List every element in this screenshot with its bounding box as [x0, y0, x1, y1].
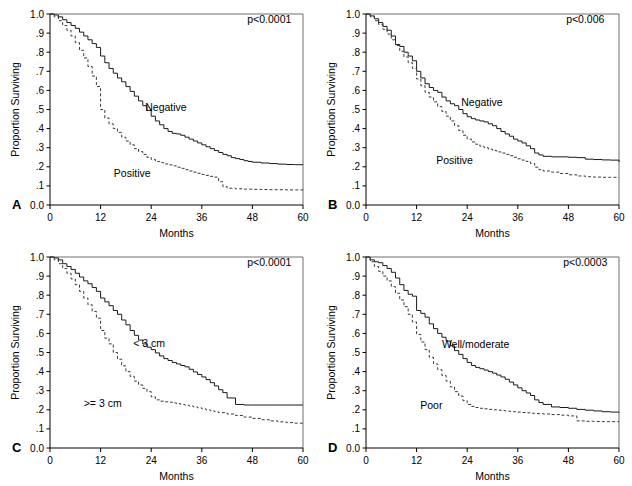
y-tick-label: .2	[36, 404, 45, 415]
y-tick-label: .3	[352, 385, 361, 396]
y-tick-label: .2	[36, 161, 45, 172]
y-tick-label: .1	[36, 423, 45, 434]
y-tick-label: .6	[36, 328, 45, 339]
y-tick-label: .7	[352, 66, 361, 77]
panel-d: 0.0.1.2.3.4.5.6.7.8.91.001224364860Month…	[316, 243, 632, 486]
y-tick-label: .1	[352, 423, 361, 434]
y-axis-title: Proportion Surviving	[325, 305, 337, 400]
x-tick-label: 60	[297, 455, 309, 466]
y-tick-label: .3	[36, 385, 45, 396]
x-tick-label: 0	[363, 212, 369, 223]
panel-d-plot: 0.0.1.2.3.4.5.6.7.8.91.001224364860Month…	[316, 243, 632, 486]
panel-letter: C	[12, 440, 22, 455]
panel-a: 0.0.1.2.3.4.5.6.7.8.91.001224364860Month…	[0, 0, 316, 243]
series-label: Positive	[114, 167, 151, 179]
series-label: Negative	[461, 96, 503, 108]
x-axis-title: Months	[159, 227, 193, 239]
x-tick-label: 24	[462, 455, 474, 466]
x-tick-label: 60	[297, 212, 309, 223]
panel-letter: A	[12, 197, 22, 212]
x-tick-label: 36	[196, 212, 208, 223]
series-label: Well/moderate	[442, 338, 510, 350]
x-tick-label: 0	[47, 455, 53, 466]
y-tick-label: 0.0	[30, 443, 44, 454]
series-label: < 3 cm	[133, 337, 165, 349]
y-axis-title: Proportion Surviving	[9, 62, 21, 157]
y-tick-label: .7	[36, 309, 45, 320]
kaplan-meier-figure: 0.0.1.2.3.4.5.6.7.8.91.001224364860Month…	[0, 0, 632, 486]
y-tick-label: .5	[352, 104, 361, 115]
p-value-annotation: p<0.0001	[247, 13, 291, 25]
x-tick-label: 36	[512, 212, 524, 223]
y-tick-label: .5	[36, 104, 45, 115]
y-tick-label: .4	[352, 366, 361, 377]
series-label: Negative	[145, 101, 187, 113]
y-tick-label: .6	[352, 85, 361, 96]
panel-c-plot: 0.0.1.2.3.4.5.6.7.8.91.001224364860Month…	[0, 243, 316, 486]
y-tick-label: 1.0	[346, 252, 360, 263]
panel-c: 0.0.1.2.3.4.5.6.7.8.91.001224364860Month…	[0, 243, 316, 486]
x-tick-label: 0	[47, 212, 53, 223]
y-tick-label: .8	[36, 47, 45, 58]
panel-b-plot: 0.0.1.2.3.4.5.6.7.8.91.001224364860Month…	[316, 0, 632, 243]
panel-letter: B	[328, 197, 337, 212]
y-tick-label: .9	[352, 28, 361, 39]
survival-curve-well-moderate	[366, 257, 619, 413]
y-tick-label: 0.0	[346, 200, 360, 211]
y-tick-label: .9	[36, 28, 45, 39]
y-tick-label: .6	[352, 328, 361, 339]
x-tick-label: 48	[563, 455, 575, 466]
y-tick-label: .3	[352, 142, 361, 153]
y-tick-label: 0.0	[30, 200, 44, 211]
y-tick-label: .1	[352, 180, 361, 191]
panel-b: 0.0.1.2.3.4.5.6.7.8.91.001224364860Month…	[316, 0, 632, 243]
x-tick-label: 48	[563, 212, 575, 223]
x-tick-label: 60	[613, 212, 625, 223]
y-tick-label: .5	[352, 347, 361, 358]
y-tick-label: 0.0	[346, 443, 360, 454]
p-value-annotation: p<0.0003	[563, 256, 607, 268]
y-tick-label: .1	[36, 180, 45, 191]
series-label: >= 3 cm	[84, 397, 122, 409]
y-tick-label: .4	[352, 123, 361, 134]
y-tick-label: .5	[36, 347, 45, 358]
axis-lines	[50, 257, 303, 448]
x-tick-label: 12	[95, 212, 107, 223]
y-tick-label: .7	[352, 309, 361, 320]
y-tick-label: .9	[352, 271, 361, 282]
x-axis-title: Months	[475, 227, 509, 239]
y-tick-label: .8	[36, 290, 45, 301]
series-label: Poor	[420, 399, 443, 411]
panel-a-plot: 0.0.1.2.3.4.5.6.7.8.91.001224364860Month…	[0, 0, 316, 243]
y-tick-label: .2	[352, 404, 361, 415]
x-tick-label: 12	[95, 455, 107, 466]
x-tick-label: 24	[146, 455, 158, 466]
x-tick-label: 48	[247, 455, 259, 466]
survival-curve-negative	[50, 14, 303, 165]
y-tick-label: .4	[36, 123, 45, 134]
y-tick-label: .7	[36, 66, 45, 77]
x-tick-label: 60	[613, 455, 625, 466]
x-tick-label: 48	[247, 212, 259, 223]
x-tick-label: 24	[462, 212, 474, 223]
y-tick-label: .9	[36, 271, 45, 282]
plot-frame	[50, 257, 303, 448]
x-tick-label: 36	[196, 455, 208, 466]
x-tick-label: 24	[146, 212, 158, 223]
series-label: Positive	[436, 154, 473, 166]
x-tick-label: 0	[363, 455, 369, 466]
y-tick-label: .8	[352, 47, 361, 58]
x-tick-label: 12	[411, 455, 423, 466]
survival-curve-negative	[366, 14, 619, 162]
p-value-annotation: p<0.006	[566, 13, 604, 25]
x-axis-title: Months	[475, 470, 509, 482]
y-tick-label: 1.0	[30, 252, 44, 263]
y-tick-label: .2	[352, 161, 361, 172]
survival-curve-3-cm	[50, 257, 303, 405]
y-tick-label: .4	[36, 366, 45, 377]
y-axis-title: Proportion Surviving	[325, 62, 337, 157]
y-tick-label: .6	[36, 85, 45, 96]
p-value-annotation: p<0.0001	[247, 256, 291, 268]
y-tick-label: .8	[352, 290, 361, 301]
x-axis-title: Months	[159, 470, 193, 482]
